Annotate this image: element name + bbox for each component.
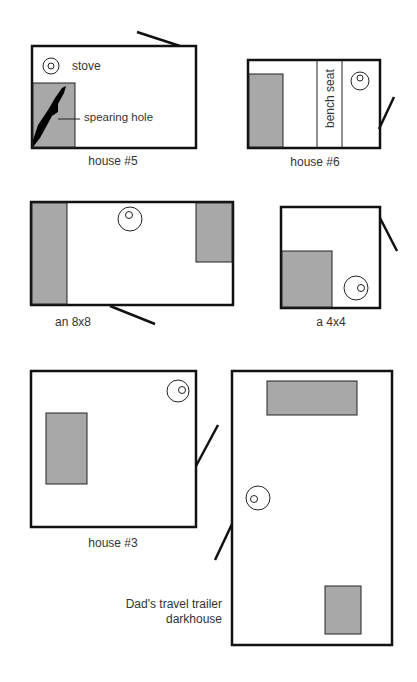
house-3-plan — [31, 371, 218, 527]
door — [137, 32, 180, 46]
stove-label: stove — [72, 59, 101, 73]
floorplans-diagram — [0, 0, 417, 682]
spearing-hole-label: spearing hole — [84, 111, 153, 123]
4x4-label: a 4x4 — [316, 315, 345, 329]
8x8-label: an 8x8 — [55, 315, 91, 329]
house-5-plan — [32, 32, 196, 148]
trailer-plan — [215, 371, 392, 645]
4x4-plan — [281, 207, 397, 308]
trailer-label-line1: Dad's travel trailer — [126, 597, 222, 611]
door — [215, 524, 232, 560]
bench-seat-label: bench seat — [323, 69, 337, 128]
trailer-label-line2: darkhouse — [166, 612, 222, 626]
house-6-label: house #6 — [290, 155, 339, 169]
house-6-plan — [248, 60, 394, 148]
door — [110, 306, 155, 324]
house-5-label: house #5 — [88, 154, 137, 168]
house-3-label: house #3 — [88, 536, 137, 550]
8x8-plan — [31, 202, 233, 324]
door — [380, 218, 397, 251]
door — [196, 425, 218, 466]
